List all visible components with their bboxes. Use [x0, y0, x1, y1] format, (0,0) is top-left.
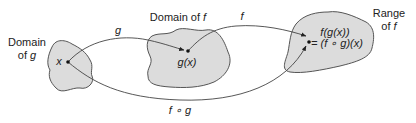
arrow-g-label: g	[115, 24, 122, 36]
point-gx	[186, 49, 190, 53]
domain-f-label: Domain of f	[150, 11, 207, 23]
composition-diagram: Domain of g Domain of f Range of f x g(x…	[0, 0, 416, 123]
domain-g-label-line1: Domain	[8, 36, 46, 48]
range-f-label-line1: Range	[373, 7, 405, 19]
point-x	[66, 60, 70, 64]
arrow-f-label: f	[240, 10, 244, 22]
range-f-label-line2: of f	[381, 20, 397, 32]
domain-g-label-line2: of g	[18, 49, 37, 61]
point-x-label: x	[55, 55, 62, 67]
point-fgx-label-line2: = (f ∘ g)(x)	[311, 37, 363, 49]
arrow-composition-label: f ∘ g	[169, 104, 192, 116]
point-gx-label: g(x)	[178, 56, 197, 68]
